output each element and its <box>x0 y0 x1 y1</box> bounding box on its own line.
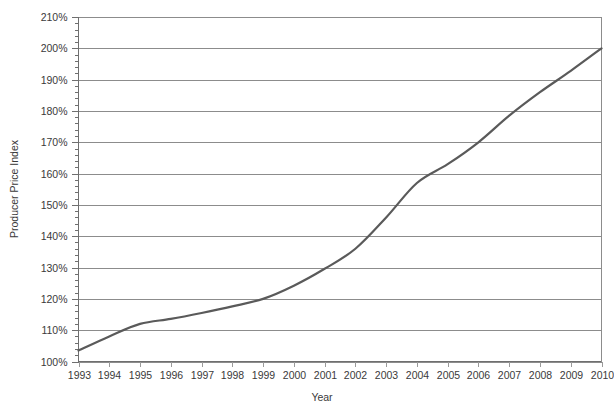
y-tick-label-160: 160% <box>41 168 68 180</box>
x-tick-label-2009: 2009 <box>560 369 584 381</box>
x-axis-title: Year <box>311 391 333 403</box>
x-tick-label-1993: 1993 <box>68 369 92 381</box>
y-tick-label-200: 200% <box>41 42 68 54</box>
y-tick-label-100: 100% <box>41 356 68 368</box>
x-tick-label-2008: 2008 <box>529 369 553 381</box>
x-tick-label-2001: 2001 <box>314 369 338 381</box>
y-tick-label-130: 130% <box>41 262 68 274</box>
x-tick-label-2006: 2006 <box>467 369 491 381</box>
x-tick-label-2007: 2007 <box>498 369 522 381</box>
y-tick-label-210: 210% <box>41 11 68 23</box>
x-tick-label-1999: 1999 <box>252 369 276 381</box>
y-tick-label-120: 120% <box>41 293 68 305</box>
x-tick-label-2003: 2003 <box>375 369 399 381</box>
y-tick-label-150: 150% <box>41 199 68 211</box>
y-tick-label-140: 140% <box>41 230 68 242</box>
x-tick-label-2010: 2010 <box>591 369 614 381</box>
y-tick-label-110: 110% <box>41 324 67 336</box>
y-tick-label-170: 170% <box>41 136 68 148</box>
y-tick-label-190: 190% <box>41 74 68 86</box>
y-tick-label-180: 180% <box>41 105 68 117</box>
x-tick-label-2002: 2002 <box>344 369 368 381</box>
x-tick-label-1996: 1996 <box>160 369 184 381</box>
x-tick-label-2005: 2005 <box>437 369 461 381</box>
chart-figure: 100%110%120%130%140%150%160%170%180%190%… <box>0 0 614 410</box>
x-tick-label-1998: 1998 <box>221 369 245 381</box>
y-axis-title: Producer Price Index <box>8 139 20 238</box>
x-tick-label-2000: 2000 <box>283 369 307 381</box>
x-tick-label-2004: 2004 <box>406 369 430 381</box>
chart-svg: 100%110%120%130%140%150%160%170%180%190%… <box>0 0 614 410</box>
x-tick-label-1995: 1995 <box>129 369 153 381</box>
x-tick-label-1994: 1994 <box>98 369 122 381</box>
x-tick-label-1997: 1997 <box>191 369 215 381</box>
